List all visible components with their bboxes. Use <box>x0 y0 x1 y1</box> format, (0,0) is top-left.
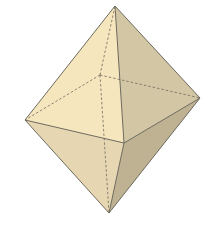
octahedron-figure <box>0 0 210 227</box>
face-upper-left <box>25 6 124 143</box>
face-upper-right <box>115 6 200 143</box>
